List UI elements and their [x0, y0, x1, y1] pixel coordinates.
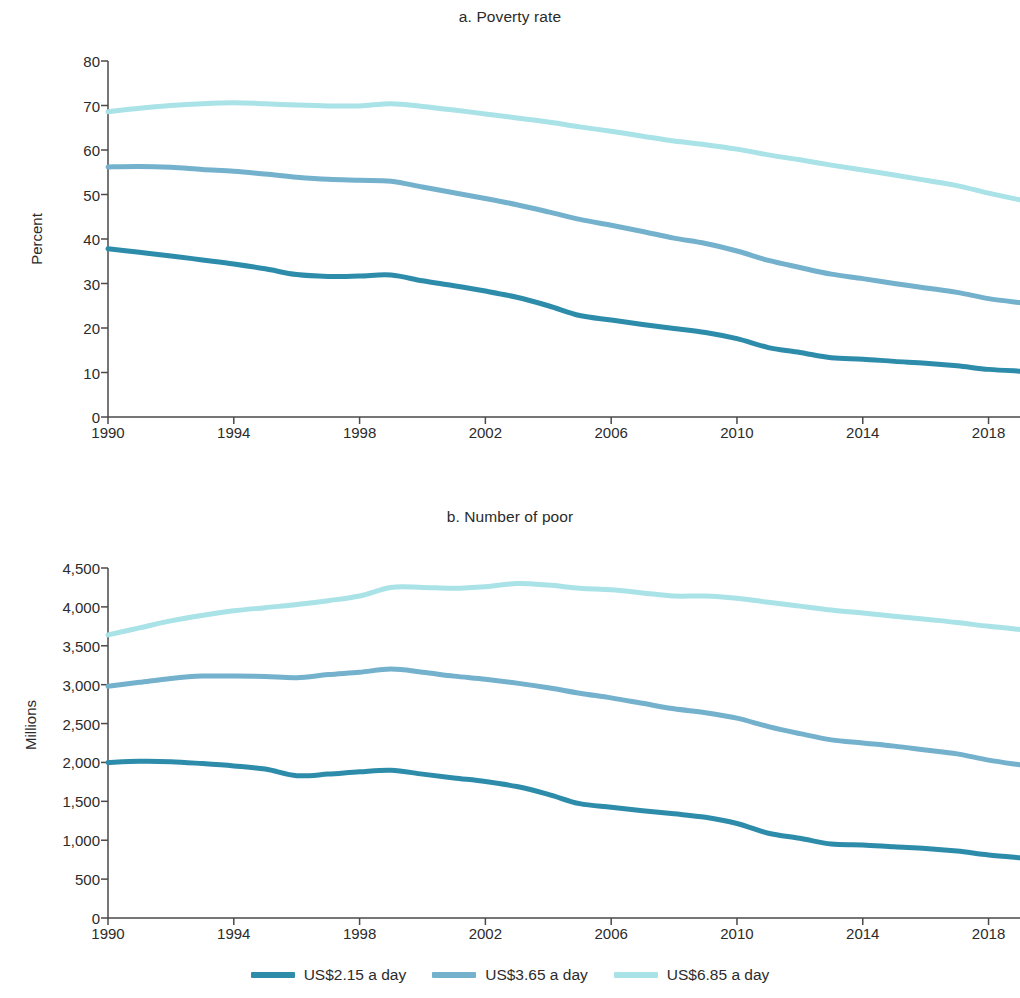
x-axis-tick-label: 1994 [217, 424, 250, 441]
y-axis-tick-label: 50 [40, 186, 100, 203]
panel-poverty-rate: a. Poverty rate [0, 0, 1020, 480]
x-axis-tick-label: 2014 [846, 925, 879, 942]
legend-label: US$3.65 a day [485, 966, 588, 984]
legend-swatch-icon [614, 972, 658, 978]
x-axis-tick-label: 2002 [469, 925, 502, 942]
y-axis-title: Percent [28, 213, 45, 265]
y-axis-tick-label: 0 [28, 910, 100, 927]
y-axis-tick-label: 30 [40, 275, 100, 292]
x-axis-tick-label: 2018 [972, 925, 1005, 942]
legend-label: US$2.15 a day [304, 966, 407, 984]
x-axis-tick-label: 2006 [594, 925, 627, 942]
axis-spine [108, 61, 1020, 417]
x-axis-tick-label: 2018 [972, 424, 1005, 441]
series-line [108, 669, 1020, 765]
x-axis-tick-label: 1994 [217, 925, 250, 942]
x-axis-tick-label: 2010 [720, 424, 753, 441]
legend-item: US$3.65 a day [432, 966, 588, 984]
y-axis-tick-label: 10 [40, 364, 100, 381]
y-axis-tick-label: 40 [40, 231, 100, 248]
x-axis-tick-label: 2006 [594, 424, 627, 441]
series-line [108, 103, 1020, 200]
y-axis-tick-label: 4,500 [28, 560, 100, 577]
x-axis-tick-label: 1990 [91, 925, 124, 942]
y-axis-tick-label: 500 [28, 871, 100, 888]
y-axis-tick-label: 1,000 [28, 832, 100, 849]
legend-item: US$2.15 a day [251, 966, 407, 984]
legend-item: US$6.85 a day [614, 966, 770, 984]
legend-swatch-icon [432, 972, 476, 978]
panel-b-plot [0, 500, 1020, 970]
x-axis-tick-label: 2014 [846, 424, 879, 441]
y-axis-tick-label: 0 [40, 409, 100, 426]
series-line [108, 761, 1020, 857]
y-axis-tick-label: 60 [40, 142, 100, 159]
panel-number-of-poor: b. Number of poor [0, 500, 1020, 960]
series-line [108, 249, 1020, 371]
series-line [108, 166, 1020, 302]
y-axis-tick-label: 3,500 [28, 637, 100, 654]
legend: US$2.15 a dayUS$3.65 a dayUS$6.85 a day [0, 966, 1020, 984]
panel-a-plot [0, 0, 1020, 470]
y-axis-tick-label: 2,000 [28, 754, 100, 771]
figure-root: a. Poverty rate b. Number of poor US$2.1… [0, 0, 1020, 998]
x-axis-tick-label: 1998 [343, 925, 376, 942]
x-axis-tick-label: 2010 [720, 925, 753, 942]
x-axis-tick-label: 1990 [91, 424, 124, 441]
y-axis-tick-label: 4,000 [28, 598, 100, 615]
legend-label: US$6.85 a day [667, 966, 770, 984]
plot-area [0, 500, 1020, 970]
y-axis-title: Millions [22, 700, 39, 750]
y-axis-tick-label: 1,500 [28, 793, 100, 810]
y-axis-tick-label: 3,000 [28, 676, 100, 693]
y-axis-tick-label: 80 [40, 53, 100, 70]
y-axis-tick-label: 70 [40, 97, 100, 114]
series-line [108, 584, 1020, 635]
x-axis-tick-label: 2002 [469, 424, 502, 441]
y-axis-tick-label: 20 [40, 320, 100, 337]
plot-area [0, 0, 1020, 470]
x-axis-tick-label: 1998 [343, 424, 376, 441]
legend-swatch-icon [251, 972, 295, 978]
